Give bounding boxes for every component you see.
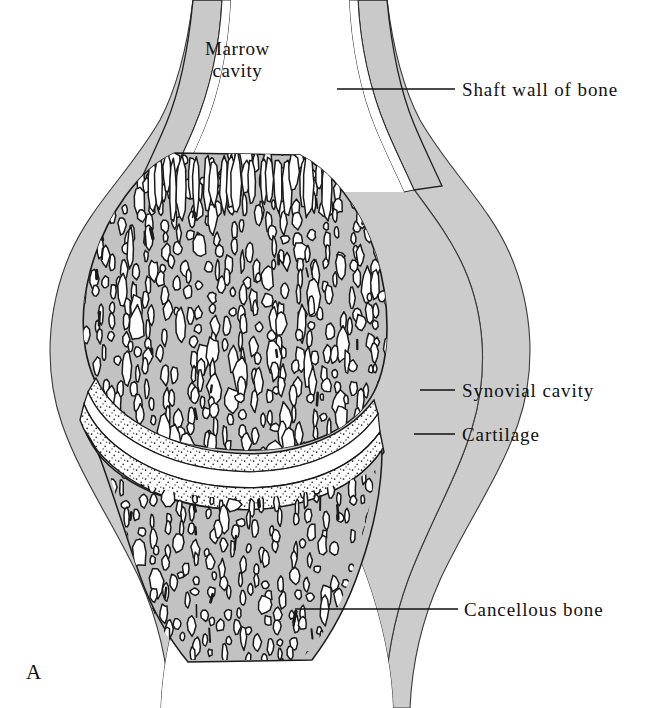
label-marrow-cavity-line1: Marrow (205, 38, 270, 60)
panel-letter: A (26, 660, 41, 685)
label-synovial-cavity: Synovial cavity (462, 380, 594, 402)
label-cancellous-bone: Cancellous bone (464, 599, 604, 621)
label-marrow-cavity: Marrow cavity (205, 38, 270, 83)
figure-root: Marrow cavity Shaft wall of bone Synovia… (0, 0, 660, 708)
label-marrow-cavity-line2: cavity (205, 60, 270, 82)
label-shaft-wall: Shaft wall of bone (462, 79, 618, 101)
label-cartilage: Cartilage (462, 424, 540, 446)
